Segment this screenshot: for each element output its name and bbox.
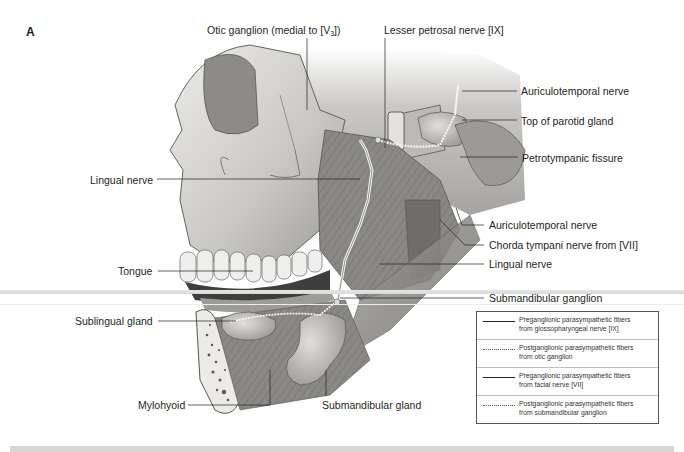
legend-text-line2: from submandibular ganglion bbox=[519, 409, 657, 418]
legend-dotted-line-swatch bbox=[483, 349, 515, 350]
label-submandibular-gland: Submandibular gland bbox=[322, 399, 421, 411]
legend-item-postganglionic-submandibular: Postganglionic parasympathetic fibers fr… bbox=[477, 400, 660, 424]
panel-letter: A bbox=[26, 25, 35, 39]
label-tongue: Tongue bbox=[118, 265, 152, 277]
legend-text-line1: Postganglionic parasympathetic fibers bbox=[519, 344, 657, 353]
legend-divider bbox=[477, 367, 658, 368]
legend-solid-line-swatch bbox=[483, 377, 515, 378]
legend-text-line1: Preganglionic parasympathetic fibers bbox=[519, 316, 657, 325]
legend-text-line2: from facial nerve [VII] bbox=[519, 381, 657, 390]
label-otic-ganglion-tail: ]) bbox=[334, 24, 340, 36]
legend-item-preganglionic-vii: Preganglionic parasympathetic fibers fro… bbox=[477, 372, 660, 396]
legend-dotted-line-swatch bbox=[483, 405, 515, 406]
legend-solid-line-swatch bbox=[483, 321, 515, 322]
bottom-band bbox=[10, 446, 674, 452]
label-auriculotemporal-nerve-lower: Auriculotemporal nerve bbox=[489, 219, 597, 231]
legend-item-preganglionic-ix: Preganglionic parasympathetic fibers fro… bbox=[477, 316, 660, 340]
legend-divider bbox=[477, 395, 658, 396]
background-band-line bbox=[0, 304, 684, 305]
legend: Preganglionic parasympathetic fibers fro… bbox=[476, 311, 659, 424]
label-sublingual-gland: Sublingual gland bbox=[75, 315, 153, 327]
label-top-of-parotid-gland: Top of parotid gland bbox=[521, 115, 613, 127]
legend-text: Postganglionic parasympathetic fibers fr… bbox=[519, 344, 657, 361]
label-lingual-nerve-left: Lingual nerve bbox=[90, 174, 153, 186]
label-petrotympanic-fissure: Petrotympanic fissure bbox=[522, 152, 623, 164]
legend-text-line2: from otic ganglion bbox=[519, 353, 657, 362]
legend-divider bbox=[477, 339, 658, 340]
label-mylohyoid: Mylohyoid bbox=[138, 399, 185, 411]
label-lesser-petrosal-nerve: Lesser petrosal nerve [IX] bbox=[384, 24, 504, 36]
label-chorda-tympani-nerve: Chorda tympani nerve from [VII] bbox=[489, 239, 638, 251]
label-auriculotemporal-nerve-top: Auriculotemporal nerve bbox=[521, 85, 629, 97]
label-submandibular-ganglion: Submandibular ganglion bbox=[489, 292, 602, 304]
legend-text: Preganglionic parasympathetic fibers fro… bbox=[519, 316, 657, 333]
legend-text: Preganglionic parasympathetic fibers fro… bbox=[519, 372, 657, 389]
legend-text: Postganglionic parasympathetic fibers fr… bbox=[519, 400, 657, 417]
label-lingual-nerve-right: Lingual nerve bbox=[489, 258, 552, 270]
legend-text-line1: Preganglionic parasympathetic fibers bbox=[519, 372, 657, 381]
label-otic-ganglion: Otic ganglion (medial to [V3]) bbox=[207, 24, 340, 40]
legend-text-line1: Postganglionic parasympathetic fibers bbox=[519, 400, 657, 409]
legend-item-postganglionic-otic: Postganglionic parasympathetic fibers fr… bbox=[477, 344, 660, 368]
legend-text-line2: from glossopharyngeal nerve [IX] bbox=[519, 325, 657, 334]
label-otic-ganglion-text: Otic ganglion (medial to [V bbox=[207, 24, 330, 36]
